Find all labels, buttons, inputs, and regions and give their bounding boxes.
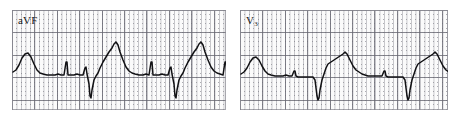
lead-label-v3: V3 [246,15,258,28]
lead-label-text: V [246,14,254,26]
ecg-trace-avf [12,10,226,110]
ecg-figure: aVF V3 [0,0,461,122]
ecg-trace-v3 [240,10,448,110]
ecg-panel-v3: V3 [240,10,448,110]
lead-label-avf: aVF [18,15,38,26]
ecg-panel-avf: aVF [12,10,226,110]
lead-label-subscript: 3 [254,20,258,28]
